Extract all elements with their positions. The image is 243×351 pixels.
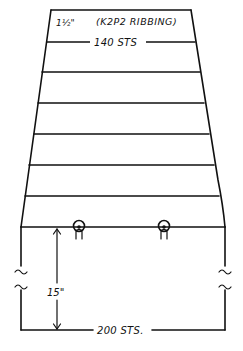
lower-rectangle xyxy=(15,227,231,330)
left-break-mark-bottom-icon xyxy=(15,285,27,289)
knitting-schematic: 1½" (K2P2 RIBBING) 140 STS 15" 200 STS. xyxy=(0,0,243,351)
bottom-stitch-count-label: 200 STS. xyxy=(97,325,144,336)
button-loop-right xyxy=(159,221,170,240)
ribbing-height-label: 1½" xyxy=(56,18,75,28)
height-dimension: 15" xyxy=(47,229,64,329)
band-lines xyxy=(21,42,225,227)
button-center xyxy=(162,225,166,229)
right-slanted-edge xyxy=(191,10,225,227)
right-break-mark-top-icon xyxy=(219,270,231,274)
button-loop-left xyxy=(74,221,85,240)
left-break-mark-top-icon xyxy=(15,270,27,274)
height-label: 15" xyxy=(47,287,64,298)
top-stitch-count-label: 140 STS xyxy=(94,37,138,48)
button-center xyxy=(77,225,81,229)
right-break-mark-bottom-icon xyxy=(219,285,231,289)
ribbing-type-label: (K2P2 RIBBING) xyxy=(96,16,177,27)
